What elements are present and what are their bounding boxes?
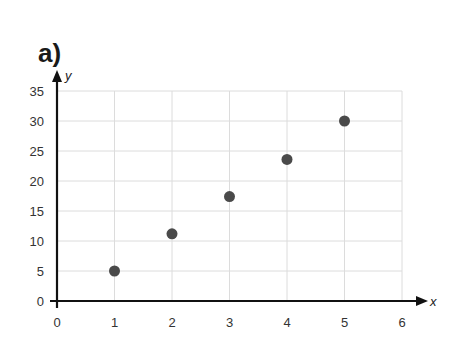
data-point xyxy=(109,266,120,277)
axes: xy xyxy=(50,68,437,309)
x-tick-label: 2 xyxy=(168,315,175,330)
scatter-chart: xy 012345605101520253035 xyxy=(0,0,451,350)
x-tick-label: 4 xyxy=(283,315,290,330)
x-tick-label: 0 xyxy=(53,315,60,330)
x-tick-label: 5 xyxy=(341,315,348,330)
x-axis-label: x xyxy=(429,294,437,309)
y-tick-label: 15 xyxy=(30,204,44,219)
y-tick-label: 5 xyxy=(37,264,44,279)
y-axis-arrow-icon xyxy=(52,70,62,82)
y-tick-label: 25 xyxy=(30,144,44,159)
x-tick-label: 3 xyxy=(226,315,233,330)
data-point xyxy=(282,154,293,165)
y-tick-label: 30 xyxy=(30,114,44,129)
data-point xyxy=(339,116,350,127)
data-point xyxy=(167,228,178,239)
x-tick-label: 6 xyxy=(398,315,405,330)
y-tick-label: 35 xyxy=(30,84,44,99)
data-point xyxy=(224,191,235,202)
x-tick-label: 1 xyxy=(111,315,118,330)
y-tick-label: 20 xyxy=(30,174,44,189)
x-axis-arrow-icon xyxy=(416,296,428,306)
y-tick-label: 10 xyxy=(30,234,44,249)
y-tick-label: 0 xyxy=(37,294,44,309)
y-axis-label: y xyxy=(64,68,73,83)
